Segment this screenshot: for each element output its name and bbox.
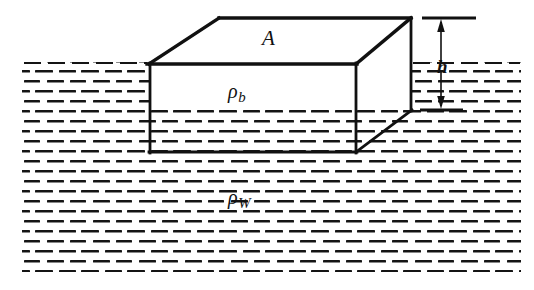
dimension-arrowhead-up (437, 19, 445, 32)
label-top-face-area: A (262, 26, 275, 51)
rho-subscript-water: W (238, 195, 250, 211)
label-water-density: ρW (228, 186, 250, 209)
block-front-face-dry (149, 64, 356, 110)
rho-subscript-block: b (238, 89, 245, 105)
rho-symbol-water: ρ (228, 186, 238, 208)
label-block-density: ρb (228, 80, 245, 103)
figure-canvas: A ρb ρW h (0, 0, 534, 290)
rho-symbol-block: ρ (228, 80, 238, 102)
label-height-h: h (437, 56, 448, 78)
